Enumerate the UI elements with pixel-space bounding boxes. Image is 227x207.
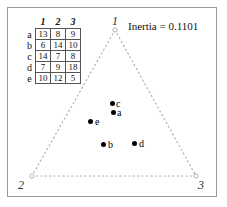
data-point-d [132, 141, 137, 146]
data-point-label-d: d [139, 138, 144, 149]
data-point-a [111, 110, 116, 115]
table-corner-cell [24, 16, 36, 29]
table-row: b 6 14 10 [24, 40, 81, 51]
data-table-grid: 1 2 3 a 13 8 9 b 6 14 10 c 14 7 8 [24, 16, 81, 84]
data-point-c [110, 101, 115, 106]
cell-b-3: 10 [66, 40, 81, 51]
cell-e-3: 5 [66, 73, 81, 84]
vertex-label-1: 1 [112, 14, 118, 29]
table-row: e 10 12 5 [24, 73, 81, 84]
data-point-label-b: b [108, 139, 113, 150]
cell-b-1: 6 [36, 40, 51, 51]
vertex-marker-2 [30, 174, 34, 178]
row-header-c: c [24, 51, 36, 62]
row-header-a: a [24, 29, 36, 40]
table-row: a 13 8 9 [24, 29, 81, 40]
data-point-label-a: a [117, 107, 121, 118]
figure-root: 1 2 3 c a e b d Inertia = 0.1101 1 2 3 a… [0, 0, 227, 207]
column-header-1: 1 [36, 16, 51, 29]
triangle-edge-right [115, 30, 196, 176]
cell-a-2: 8 [51, 29, 66, 40]
data-table: 1 2 3 a 13 8 9 b 6 14 10 c 14 7 8 [24, 16, 81, 84]
inertia-annotation: Inertia = 0.1101 [128, 20, 198, 32]
vertex-label-3: 3 [198, 178, 204, 193]
cell-d-2: 9 [51, 62, 66, 73]
column-header-2: 2 [51, 16, 66, 29]
cell-d-3: 18 [66, 62, 81, 73]
row-header-e: e [24, 73, 36, 84]
table-row: d 7 9 18 [24, 62, 81, 73]
data-point-e [88, 119, 93, 124]
cell-a-1: 13 [36, 29, 51, 40]
cell-c-3: 8 [66, 51, 81, 62]
vertex-label-2: 2 [18, 178, 24, 193]
row-header-b: b [24, 40, 36, 51]
data-point-label-e: e [95, 116, 99, 127]
cell-e-1: 10 [36, 73, 51, 84]
cell-d-1: 7 [36, 62, 51, 73]
table-header-row: 1 2 3 [24, 16, 81, 29]
column-header-3: 3 [66, 16, 81, 29]
data-point-b [101, 142, 106, 147]
cell-c-2: 7 [51, 51, 66, 62]
row-header-d: d [24, 62, 36, 73]
cell-c-1: 14 [36, 51, 51, 62]
cell-e-2: 12 [51, 73, 66, 84]
table-row: c 14 7 8 [24, 51, 81, 62]
cell-a-3: 9 [66, 29, 81, 40]
cell-b-2: 14 [51, 40, 66, 51]
